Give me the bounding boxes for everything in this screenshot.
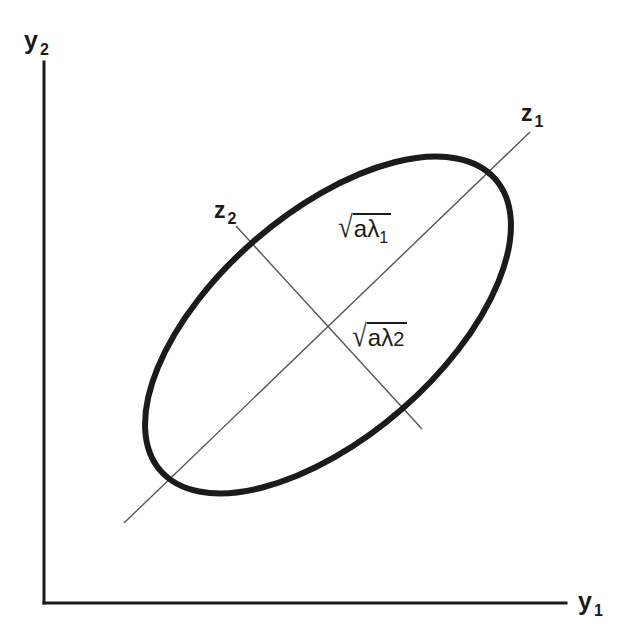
sqrt-a-lambda-1-annotation: √aλ1 xyxy=(338,213,391,247)
radicand-base-1: aλ xyxy=(354,215,379,242)
radical-sign-icon: √ xyxy=(338,212,353,243)
y-axis-label-subscript: 2 xyxy=(38,41,49,58)
radical-group-1: √aλ1 xyxy=(338,213,391,247)
z1-label-subscript: 1 xyxy=(533,113,544,130)
y-axis-label: y2 xyxy=(24,28,49,58)
z2-label-subscript: 2 xyxy=(226,210,237,227)
x-axis-label-subscript: 1 xyxy=(592,602,603,619)
radicand-base-2: aλ xyxy=(368,324,393,351)
z1-axis-label: z1 xyxy=(521,102,543,130)
z2-axis-label: z2 xyxy=(214,199,236,227)
radical-sign-icon: √ xyxy=(352,321,367,352)
radicand-subscript-2: 2 xyxy=(393,328,404,350)
ellipse-figure: y2 y1 z1 z2 √aλ1 √aλ2 xyxy=(0,0,628,638)
figure-canvas xyxy=(0,0,628,638)
radicand-1: aλ1 xyxy=(353,213,391,247)
sqrt-a-lambda-2-annotation: √aλ2 xyxy=(352,322,407,350)
x-axis-label: y1 xyxy=(578,589,603,619)
y-axis-label-base: y xyxy=(24,26,38,54)
radical-group-2: √aλ2 xyxy=(352,322,407,350)
x-axis-label-base: y xyxy=(578,587,592,615)
z1-label-base: z xyxy=(521,100,533,126)
radicand-2: aλ2 xyxy=(367,322,407,350)
radicand-subscript-1: 1 xyxy=(379,229,388,246)
z2-label-base: z xyxy=(214,197,226,223)
